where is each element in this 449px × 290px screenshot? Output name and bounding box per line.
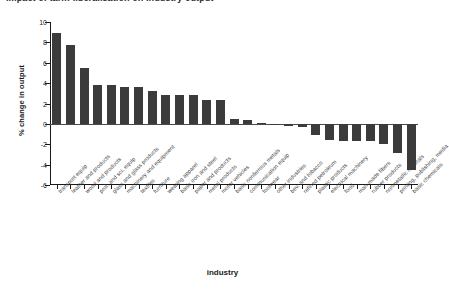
bar xyxy=(66,45,75,123)
bar xyxy=(134,87,143,124)
bar xyxy=(284,124,293,126)
x-axis-category-labels: transport equipleather and productswood … xyxy=(50,190,445,268)
bar xyxy=(257,123,266,124)
bar xyxy=(148,91,157,124)
y-tick-label: 10 xyxy=(39,19,47,26)
bar xyxy=(393,124,402,154)
bar xyxy=(52,33,61,124)
y-axis-title: % change in output xyxy=(17,46,26,156)
clipped-title-text: impact of tariff liberalisation on indus… xyxy=(0,0,445,3)
y-tick-label: 4 xyxy=(43,80,47,87)
bar xyxy=(175,95,184,124)
y-tick-label: 2 xyxy=(43,100,47,107)
bar xyxy=(120,87,129,124)
bar xyxy=(189,95,198,124)
bar xyxy=(270,124,279,126)
bar xyxy=(243,120,252,124)
bar xyxy=(107,85,116,124)
x-axis-title: industry xyxy=(0,268,445,277)
bar xyxy=(298,124,307,128)
y-tick-label: -4 xyxy=(41,161,47,168)
bar xyxy=(366,124,375,141)
bar xyxy=(216,100,225,123)
bar xyxy=(379,124,388,144)
bar xyxy=(325,124,334,140)
clipped-title-sliver: impact of tariff liberalisation on indus… xyxy=(0,0,445,7)
bar xyxy=(161,95,170,124)
bar xyxy=(93,85,102,124)
y-tick-label: -2 xyxy=(41,141,47,148)
bar xyxy=(311,124,320,135)
bar xyxy=(352,124,361,141)
y-tick-label: 6 xyxy=(43,59,47,66)
bar xyxy=(230,119,239,124)
bar xyxy=(339,124,348,141)
bar xyxy=(80,68,89,124)
y-tick-label: -6 xyxy=(41,182,47,189)
y-tick-label: 8 xyxy=(43,39,47,46)
y-tick-label: 0 xyxy=(43,120,47,127)
bar xyxy=(202,100,211,123)
